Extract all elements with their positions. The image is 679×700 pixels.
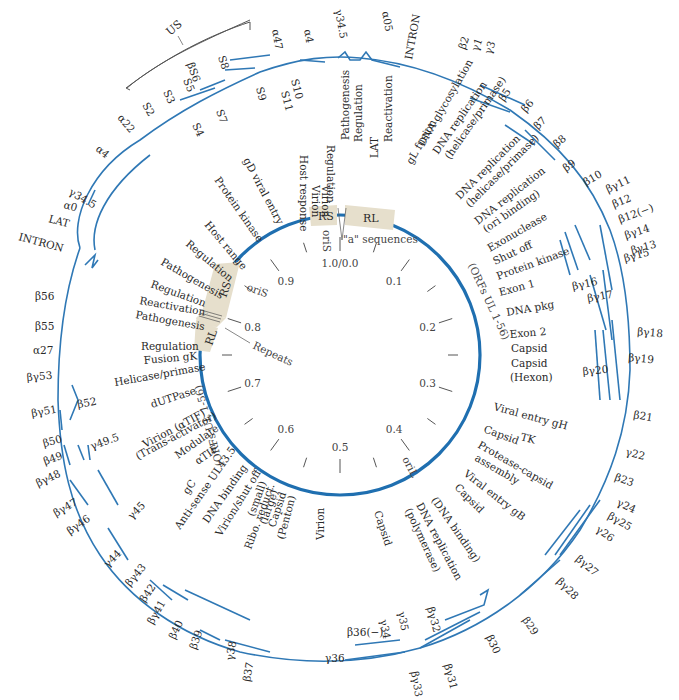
gene-label: α05 — [380, 10, 395, 32]
function-label: Reactivation — [382, 75, 394, 142]
gene-label: βγ19 — [628, 351, 655, 365]
map-tick — [401, 439, 409, 450]
gene-label: β21 — [633, 408, 654, 423]
function-label: Regulation — [325, 145, 337, 203]
map-unit-label: 0.5 — [332, 441, 349, 453]
map-unit-label: 0.6 — [278, 423, 295, 435]
gene-label: βγ47 — [51, 495, 79, 518]
map-tick — [304, 458, 307, 468]
gene-label: γ3 — [482, 39, 498, 55]
function-label: Exon 2 — [509, 325, 547, 340]
map-tick — [439, 387, 452, 391]
gene-label: β52 — [76, 395, 97, 410]
hsv-genome-map: US — [0, 0, 679, 700]
function-label: Host response — [298, 155, 310, 231]
map-tick — [439, 319, 452, 323]
gene-label: βγ53 — [26, 369, 53, 383]
gene-label: S3 — [161, 88, 178, 106]
gene-label: γ44 — [101, 547, 124, 570]
map-tick — [228, 387, 241, 391]
function-label: Capsid — [511, 342, 548, 354]
map-unit-label: 0.1 — [386, 275, 403, 287]
map-unit-label: 0.4 — [386, 423, 403, 435]
map-tick — [427, 418, 435, 424]
map-tick — [427, 286, 435, 292]
gene-label: γ36 — [325, 652, 345, 664]
map-tick — [373, 458, 376, 468]
function-label: LAT — [368, 137, 380, 158]
map-tick — [304, 243, 307, 253]
oris-top-label: oriS — [321, 230, 333, 252]
gene-label: βγ15 — [622, 246, 650, 264]
gene-label: β6 — [518, 97, 536, 115]
function-label: TK — [519, 430, 537, 445]
gene-label: INTRON — [17, 230, 65, 254]
gene-label: S8 — [216, 54, 232, 71]
map-unit-label: 0.2 — [419, 321, 436, 333]
map-unit-label: 0.3 — [419, 377, 436, 389]
gene-label: γ49.5 — [89, 430, 121, 451]
gene-label: α4 — [94, 142, 113, 160]
map-tick — [228, 319, 241, 323]
gene-label: βγ33 — [409, 670, 425, 697]
function-label: (Hexon) — [510, 371, 553, 383]
a-sequences-label: "a" sequences — [343, 233, 418, 245]
gene-label: γ26 — [594, 523, 617, 544]
function-label: DNA pkg — [505, 298, 555, 318]
gene-label: β10 — [581, 168, 604, 188]
gene-label: S4 — [190, 121, 207, 139]
gene-label: βγ43 — [122, 561, 148, 588]
gene-label: βγ31 — [442, 662, 460, 690]
gene-label: α4 — [302, 28, 316, 44]
gene-label: β50 — [41, 432, 63, 449]
oril-label: oriL — [400, 454, 421, 479]
gene-label: α22 — [115, 112, 137, 135]
rl-top-label: RL — [363, 212, 379, 225]
map-tick — [271, 439, 279, 450]
gene-label: γ35 — [396, 610, 411, 631]
gene-label: γ34.5 — [333, 8, 350, 39]
gene-label: γ38 — [223, 640, 238, 661]
oris-left-label: oriS — [245, 281, 270, 300]
function-label: Regulation — [352, 84, 364, 142]
map-tick — [401, 260, 409, 271]
gene-label: INTRON — [402, 13, 422, 60]
map-unit-label: 0.9 — [278, 275, 295, 287]
gene-label: β8 — [551, 132, 568, 149]
gene-label: S9 — [254, 85, 269, 102]
gene-label: γ45 — [125, 499, 147, 521]
gene-label: βγ27 — [574, 552, 601, 578]
gene-label: βγ18 — [637, 325, 664, 339]
gene-label: β12 — [610, 191, 633, 209]
map-unit-label: 0.8 — [244, 321, 261, 333]
gene-label: β30 — [484, 633, 503, 656]
function-label: dUTPase — [149, 384, 197, 410]
map-tick — [271, 260, 279, 271]
function-label: Regulation — [141, 340, 199, 352]
function-label: Pathogenesis — [339, 70, 351, 140]
function-label: Capsid — [511, 357, 548, 369]
us-label: US — [164, 18, 185, 39]
gene-label: LAT — [47, 212, 70, 229]
function-label: Virion — [314, 508, 326, 541]
map-unit-ticks: 1.0/0.00.10.20.30.40.50.60.70.80.9 — [222, 237, 458, 473]
map-unit-label: 1.0/0.0 — [322, 257, 359, 269]
gene-label: β55 — [35, 320, 54, 332]
gene-label: β56 — [35, 290, 55, 302]
gene-label: α47 — [270, 28, 285, 50]
gene-label: βγ32 — [425, 605, 443, 633]
repeats-label: Repeats — [251, 339, 295, 368]
gene-label: β29 — [520, 614, 541, 637]
map-tick — [245, 418, 253, 424]
gene-label: β9 — [560, 156, 577, 173]
gene-label: β37 — [240, 661, 255, 682]
gene-label: β23 — [613, 471, 635, 489]
map-unit-label: 0.7 — [244, 377, 261, 389]
gene-label: S2 — [140, 100, 157, 118]
function-label: Capsid — [372, 509, 395, 548]
gene-label: S7 — [214, 108, 230, 125]
gene-label: βγ17 — [586, 288, 613, 304]
gene-label: α27 — [33, 344, 53, 356]
gene-label: β36(−) — [347, 626, 383, 638]
gene-label: γ22 — [624, 445, 646, 462]
